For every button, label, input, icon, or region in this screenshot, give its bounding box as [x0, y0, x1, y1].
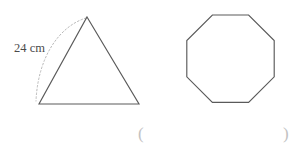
answer-close-paren: ) [283, 124, 289, 143]
geometry-figure: 24 cm ( ) [0, 0, 302, 149]
octagon-shape [187, 15, 274, 102]
answer-open-paren: ( [138, 124, 144, 143]
side-length-label: 24 cm [14, 41, 45, 55]
triangle-shape [39, 17, 139, 104]
dimension-leader-arc [36, 18, 86, 101]
figure-canvas: 24 cm ( ) [0, 0, 302, 149]
